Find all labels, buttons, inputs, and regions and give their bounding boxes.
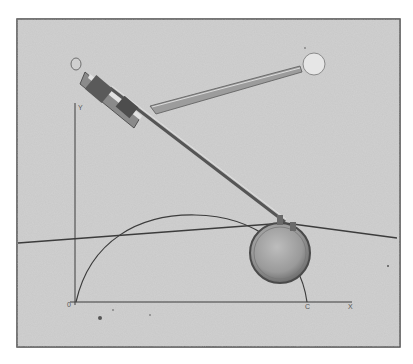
c-label: C [305,303,310,310]
photograph: Y 0 C X [0,0,413,364]
pivot-disk [303,53,325,75]
origin-label: 0 [67,301,71,308]
x-axis-label: X [348,303,353,310]
y-axis-label: Y [78,104,83,111]
integrating-wheel [250,223,310,283]
